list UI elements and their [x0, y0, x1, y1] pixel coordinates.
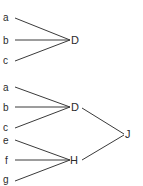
edge-a-D [15, 18, 70, 40]
leaf-label: e [3, 135, 9, 146]
edge-c-D [15, 107, 70, 128]
leaf-label: f [5, 155, 8, 166]
diagram-2-edges [15, 87, 124, 181]
node-label: D [71, 101, 79, 113]
node-label: H [70, 154, 78, 166]
edge-H-J [82, 135, 124, 160]
edge-a-D [15, 87, 70, 107]
leaf-label: a [3, 12, 9, 23]
edge-e-H [15, 140, 70, 160]
edge-D-J [82, 108, 124, 134]
edge-c-D [15, 40, 70, 61]
leaf-label: c [3, 55, 8, 66]
diagram-2-labels: a b c e f g D H J [3, 82, 131, 185]
diagram-1-edges [15, 18, 70, 61]
edge-g-H [15, 160, 70, 181]
leaf-label: g [3, 174, 9, 185]
tree-diagram-canvas: a b c D a b c e f g D H J [0, 0, 143, 186]
leaf-label: b [3, 35, 9, 46]
node-label: J [125, 128, 131, 140]
leaf-label: c [3, 122, 8, 133]
leaf-label: b [3, 102, 9, 113]
leaf-label: a [3, 82, 9, 93]
node-label: D [71, 34, 79, 46]
